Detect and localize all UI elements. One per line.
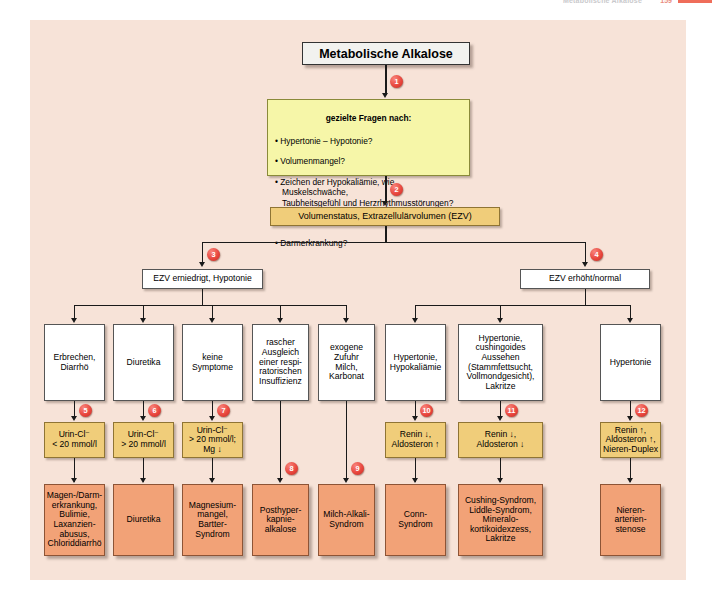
- arrowhead-right-3: [627, 318, 633, 323]
- page-number: 159: [660, 0, 672, 4]
- arrowhead-d3: [209, 478, 215, 483]
- node-branch-left: EZV erniedrigt, Hypotonie: [142, 269, 263, 289]
- questions-heading: gezielte Fragen nach:: [275, 114, 462, 123]
- arrowhead-left-4: [277, 318, 283, 323]
- badge-5: 5: [79, 404, 92, 417]
- arrowhead-11: [497, 416, 503, 421]
- arrowhead-d8: [627, 478, 633, 483]
- node-finding-hypertonie-hypokaliaemie: Hypertonie, Hypokaliämie: [385, 324, 446, 401]
- connector-f4-to-d4: [280, 401, 281, 481]
- header-rule: [678, 0, 712, 3]
- node-diagnosis-conn: Conn- Syndrom: [385, 484, 446, 556]
- arrowhead-2: [382, 201, 388, 206]
- node-test-renin-low-aldo-low: Renin ↓, Aldosteron ↓: [458, 422, 543, 458]
- node-finding-hypertonie: Hypertonie: [600, 324, 661, 401]
- node-diagnosis-cushing: Cushing-Syndrom, Liddle-Syndrom, Mineral…: [458, 484, 543, 556]
- connector-left-fan: [74, 305, 347, 306]
- node-diagnosis-bartter: Magnesium- mangel, Bartter- Syndrom: [182, 484, 243, 556]
- arrowhead-5: [71, 416, 77, 421]
- badge-6: 6: [148, 404, 161, 417]
- node-branch-right: EZV erhöht/normal: [520, 269, 650, 289]
- arrowhead-8: [277, 478, 283, 483]
- connector-to-right-branch: [585, 242, 586, 264]
- node-test-renin-low-aldo-high: Renin ↓, Aldosteron ↑: [385, 422, 446, 458]
- flowchart-canvas: Metabolische Alkalose 1 gezielte Fragen …: [30, 20, 686, 580]
- node-finding-diuretika: Diuretika: [113, 324, 174, 401]
- badge-3: 3: [207, 248, 220, 261]
- node-test-urin-cl-high: Urin-Cl⁻ > 20 mmol/l: [113, 422, 174, 458]
- connector-right-fan: [415, 305, 631, 306]
- question-item-2: • Volumenmangel?: [275, 156, 462, 167]
- arrowhead-3: [199, 262, 205, 267]
- figure-page: Metabolische Alkalose 159 Metabolische A…: [0, 0, 716, 600]
- question-item-3: • Zeichen der Hypokaliämie, wie Muskelsc…: [275, 177, 462, 209]
- question-item-5: • Darmerkrankung?: [275, 238, 462, 249]
- arrowhead-d6: [412, 478, 418, 483]
- connector-volume-down: [385, 226, 386, 243]
- badge-9: 9: [351, 462, 364, 475]
- badge-4: 4: [590, 248, 603, 261]
- node-diagnosis-milch-alkali: Milch-Alkali- Syndrom: [318, 484, 375, 556]
- node-test-urin-cl-mg: Urin-Cl⁻ > 20 mmol/l; Mg ↓: [182, 422, 243, 458]
- arrowhead-1: [382, 93, 388, 98]
- node-finding-cushingoid: Hypertonie, cushingoides Aussehen (Stamm…: [458, 324, 543, 401]
- node-finding-exogene-zufuhr: exogene Zufuhr Milch, Karbonat: [318, 324, 375, 401]
- arrowhead-4: [582, 262, 588, 267]
- badge-11: 11: [505, 404, 518, 417]
- node-volume-status: Volumenstatus, Extrazellulärvolumen (EZV…: [270, 207, 500, 226]
- node-finding-erbrechen: Erbrechen, Diarrhö: [44, 324, 105, 401]
- badge-8: 8: [285, 462, 298, 475]
- arrowhead-7: [209, 416, 215, 421]
- arrowhead-left-5: [343, 318, 349, 323]
- node-diagnosis-magen-darm: Magen-/Darm- erkrankung, Bulimie, Laxanz…: [44, 484, 105, 556]
- connector-questions-to-volume: [385, 176, 386, 203]
- arrowhead-9: [343, 478, 349, 483]
- node-diagnosis-diuretika: Diuretika: [113, 484, 174, 556]
- node-diagnosis-posthyperkapnie: Posthyper- kapnie- alkalose: [252, 484, 309, 556]
- arrowhead-d7: [497, 478, 503, 483]
- connector-to-left-branch: [202, 242, 203, 264]
- arrowhead-12: [627, 416, 633, 421]
- badge-10: 10: [420, 404, 433, 417]
- running-head-title: Metabolische Alkalose: [563, 0, 642, 4]
- arrowhead-left-3: [209, 318, 215, 323]
- node-test-urin-cl-low: Urin-Cl⁻ < 20 mmol/l: [44, 422, 105, 458]
- connector-volume-split: [202, 242, 586, 243]
- arrowhead-right-2: [497, 318, 503, 323]
- badge-7: 7: [217, 404, 230, 417]
- running-head: Metabolische Alkalose 159: [0, 0, 716, 12]
- node-finding-rascher-ausgleich: rascher Ausgleich einer respi- ratorisch…: [252, 324, 309, 401]
- connector-f5-to-d5: [346, 401, 347, 481]
- arrowhead-right-1: [412, 318, 418, 323]
- node-title: Metabolische Alkalose: [302, 42, 470, 65]
- node-test-renin-high-duplex: Renin ↑, Aldosteron ↑, Nieren-Duplex: [600, 422, 661, 458]
- arrowhead-d2: [140, 478, 146, 483]
- badge-2: 2: [390, 183, 403, 196]
- node-diagnosis-nierenarterienstenose: Nieren- arterien- stenose: [600, 484, 661, 556]
- arrowhead-left-2: [140, 318, 146, 323]
- connector-right-down: [585, 289, 586, 306]
- node-finding-keine-symptome: keine Symptome: [182, 324, 243, 401]
- badge-1: 1: [390, 75, 403, 88]
- question-item-1: • Hypertonie – Hypotonie?: [275, 136, 462, 147]
- arrowhead-left-1: [71, 318, 77, 323]
- connector-title-to-questions: [385, 65, 386, 95]
- badge-12: 12: [635, 404, 648, 417]
- connector-left-down: [202, 289, 203, 306]
- node-questions: gezielte Fragen nach: • Hypertonie – Hyp…: [267, 99, 470, 176]
- arrowhead-d1: [71, 478, 77, 483]
- arrowhead-6: [140, 416, 146, 421]
- arrowhead-10: [412, 416, 418, 421]
